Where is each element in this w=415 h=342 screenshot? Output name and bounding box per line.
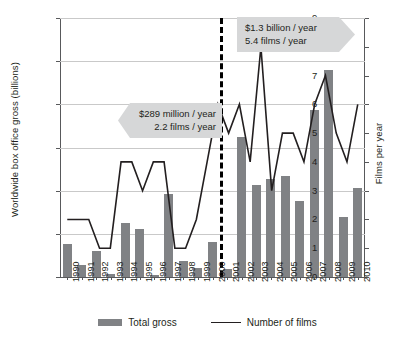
- callout-left-line2: 2.2 films / year: [134, 121, 216, 134]
- x-tick-mark: [285, 277, 286, 280]
- tick-mark: [365, 248, 369, 249]
- x-tick-mark: [169, 277, 170, 280]
- callout-left: $289 million / year 2.2 films / year: [118, 103, 222, 138]
- y-tick-right: 5: [312, 127, 328, 138]
- tick-mark: [56, 234, 60, 235]
- x-tick-label: 2003: [260, 261, 270, 282]
- y-axis-right-title: Films per year: [373, 94, 384, 214]
- tick-mark: [56, 148, 60, 149]
- x-tick-label: 2007: [318, 261, 328, 282]
- callout-right-line2: 5.4 films / year: [245, 35, 347, 48]
- x-tick-mark: [227, 277, 228, 280]
- x-tick-label: 1994: [129, 261, 139, 282]
- y-tick-right: 1: [312, 242, 328, 253]
- x-tick-mark: [271, 277, 272, 280]
- x-tick-label: 2006: [304, 261, 314, 282]
- x-tick-label: 1990: [71, 261, 81, 282]
- line-swatch-icon: [211, 322, 241, 323]
- x-tick-mark: [125, 277, 126, 280]
- x-tick-label: 2001: [231, 261, 241, 282]
- x-tick-mark: [242, 277, 243, 280]
- x-tick-mark: [154, 277, 155, 280]
- x-tick-mark: [198, 277, 199, 280]
- line-series: [60, 18, 365, 277]
- tick-mark: [365, 133, 369, 134]
- x-tick-mark: [96, 277, 97, 280]
- x-tick-mark: [82, 277, 83, 280]
- tick-mark: [56, 277, 60, 278]
- legend-item-total-gross: Total gross: [98, 317, 176, 328]
- x-tick-label: 2002: [246, 261, 256, 282]
- x-tick-mark: [329, 277, 330, 280]
- x-tick-label: 1991: [86, 261, 96, 282]
- x-tick-label: 1993: [115, 261, 125, 282]
- tick-mark: [365, 47, 369, 48]
- x-tick-label: 2010: [362, 261, 372, 282]
- x-tick-mark: [67, 277, 68, 280]
- callout-right: $1.3 billion / year 5.4 films / year: [237, 17, 355, 52]
- chart-legend: Total gross Number of films: [0, 317, 415, 328]
- callout-right-line1: $1.3 billion / year: [245, 22, 347, 35]
- x-tick-mark: [343, 277, 344, 280]
- tick-mark: [56, 104, 60, 105]
- x-tick-mark: [140, 277, 141, 280]
- legend-label-total-gross: Total gross: [128, 317, 176, 328]
- x-tick-label: 1999: [202, 261, 212, 282]
- x-tick-label: 2009: [347, 261, 357, 282]
- x-tick-label: 2000: [217, 261, 227, 282]
- y-tick-right: 3: [312, 185, 328, 196]
- x-tick-label: 1997: [173, 261, 183, 282]
- x-tick-label: 1996: [158, 261, 168, 282]
- x-tick-label: 2008: [333, 261, 343, 282]
- y-axis-left-title: Worldwide box office gross (billions): [9, 40, 20, 240]
- tick-mark: [56, 18, 60, 19]
- tick-mark: [365, 191, 369, 192]
- x-tick-mark: [256, 277, 257, 280]
- tick-mark: [365, 18, 369, 19]
- tick-mark: [365, 76, 369, 77]
- tick-mark: [365, 162, 369, 163]
- x-tick-mark: [358, 277, 359, 280]
- x-tick-label: 1998: [187, 261, 197, 282]
- tick-mark: [365, 219, 369, 220]
- y-tick-right: 7: [312, 70, 328, 81]
- x-tick-label: 1992: [100, 261, 110, 282]
- x-tick-label: 1995: [144, 261, 154, 282]
- x-tick-mark: [213, 277, 214, 280]
- period-divider: [220, 18, 223, 277]
- y-tick-right: 4: [312, 156, 328, 167]
- bar-swatch-icon: [98, 319, 122, 326]
- x-tick-mark: [111, 277, 112, 280]
- legend-label-number-of-films: Number of films: [247, 317, 317, 328]
- chart-container: Worldwide box office gross (billions) Fi…: [0, 0, 415, 342]
- legend-item-number-of-films: Number of films: [211, 317, 317, 328]
- x-tick-mark: [183, 277, 184, 280]
- y-tick-right: 2: [312, 213, 328, 224]
- callout-left-line1: $289 million / year: [134, 108, 216, 121]
- y-tick-right: 6: [312, 98, 328, 109]
- x-tick-mark: [300, 277, 301, 280]
- tick-mark: [365, 104, 369, 105]
- x-tick-label: 2004: [275, 261, 285, 282]
- x-tick-label: 2005: [289, 261, 299, 282]
- tick-mark: [56, 61, 60, 62]
- plot-area: [60, 18, 365, 277]
- tick-mark: [56, 191, 60, 192]
